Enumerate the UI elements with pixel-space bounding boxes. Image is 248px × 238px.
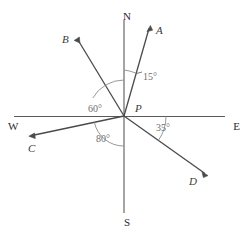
label-east: E [233,120,240,132]
ray-c-arrowhead [29,133,36,139]
label-south: S [124,216,130,228]
ray-b-arrowhead [74,37,80,43]
point-labels-group: P A B C D [28,24,197,187]
label-angle-60: 60° [88,103,102,114]
tick-15-degrees [137,72,143,74]
ray-c-line [32,116,124,136]
label-angle-15: 15° [143,71,157,82]
ray-a-arrowhead [147,26,153,32]
diagram-canvas: N S W E P A B C D 15° 60° 80° 35° [0,0,248,238]
label-point-c: C [28,142,36,154]
arc-15-degrees [124,70,136,73]
label-north: N [123,10,131,22]
label-angle-35: 35° [156,122,170,133]
label-west: W [8,120,19,132]
angle-labels-group: 15° 60° 80° 35° [88,71,170,144]
compass-diagram: N S W E P A B C D 15° 60° 80° 35° [0,0,248,238]
label-point-b: B [62,33,69,45]
label-point-a: A [155,24,163,36]
label-point-d: D [188,175,197,187]
rays-group [29,26,208,178]
label-point-p: P [134,102,142,114]
label-angle-80: 80° [96,133,110,144]
